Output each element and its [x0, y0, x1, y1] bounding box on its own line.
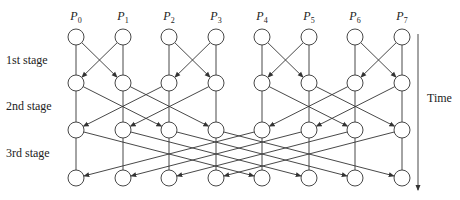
processor-label-6: P6: [349, 9, 360, 25]
processor-label-5: P5: [303, 9, 314, 25]
node-p7-t3: [394, 170, 410, 186]
node-p1-t2: [115, 122, 131, 138]
processor-label-1: P1: [117, 9, 128, 25]
nodes: [68, 29, 410, 186]
node-p0-t1: [68, 75, 84, 91]
edges: [76, 43, 402, 176]
stage-label-1: 1st stage: [6, 53, 48, 68]
node-p6-t1: [347, 75, 363, 91]
processor-label-2: P2: [163, 9, 174, 25]
processor-label-3: P3: [210, 9, 221, 25]
node-p4-t1: [254, 75, 270, 91]
butterfly-communication-diagram: [0, 0, 460, 200]
node-p4-t0: [254, 29, 270, 45]
node-p6-t3: [347, 170, 363, 186]
node-p3-t3: [208, 170, 224, 186]
node-p5-t1: [301, 75, 317, 91]
node-p7-t0: [394, 29, 410, 45]
node-p5-t3: [301, 170, 317, 186]
node-p1-t0: [115, 29, 131, 45]
node-p7-t1: [394, 75, 410, 91]
node-p2-t3: [161, 170, 177, 186]
node-p4-t3: [254, 170, 270, 186]
stage-label-2: 2nd stage: [6, 99, 52, 114]
node-p3-t0: [208, 29, 224, 45]
node-p2-t1: [161, 75, 177, 91]
node-p4-t2: [254, 122, 270, 138]
node-p5-t0: [301, 29, 317, 45]
node-p1-t1: [115, 75, 131, 91]
node-p1-t3: [115, 170, 131, 186]
node-p3-t2: [208, 122, 224, 138]
processor-label-4: P4: [256, 9, 267, 25]
node-p6-t0: [347, 29, 363, 45]
node-p0-t3: [68, 170, 84, 186]
node-p7-t2: [394, 122, 410, 138]
node-p6-t2: [347, 122, 363, 138]
node-p0-t2: [68, 122, 84, 138]
node-p5-t2: [301, 122, 317, 138]
processor-label-0: P0: [70, 9, 81, 25]
stage-label-3: 3rd stage: [6, 146, 50, 161]
node-p2-t0: [161, 29, 177, 45]
node-p0-t0: [68, 29, 84, 45]
time-label: Time: [427, 91, 452, 106]
processor-label-7: P7: [396, 9, 407, 25]
node-p3-t1: [208, 75, 224, 91]
node-p2-t2: [161, 122, 177, 138]
